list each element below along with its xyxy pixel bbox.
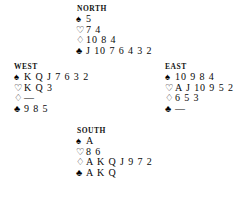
club-icon: ♣ xyxy=(14,104,23,115)
east-spades-row: ♠ 10 9 8 4 xyxy=(165,72,234,83)
spade-icon: ♠ xyxy=(165,72,174,83)
west-spades-row: ♠ K Q J 7 6 3 2 xyxy=(14,72,89,83)
hand-north: NORTH ♠ 5 ♡ 7 4 ♢ 10 8 4 ♣ J 10 7 6 4 3 … xyxy=(76,4,153,56)
heart-icon: ♡ xyxy=(14,83,23,94)
diamond-icon: ♢ xyxy=(76,157,85,168)
south-clubs-cards: A K Q xyxy=(85,168,117,179)
hand-south: SOUTH ♠ A ♡ 8 6 ♢ A K Q J 9 7 2 ♣ A K Q xyxy=(76,126,153,178)
hand-west: WEST ♠ K Q J 7 6 3 2 ♡ K Q 3 ♢ — ♣ 9 8 5 xyxy=(14,62,89,114)
seat-label-west: WEST xyxy=(14,62,89,71)
south-clubs-row: ♣ A K Q xyxy=(76,168,153,179)
north-spades-row: ♠ 5 xyxy=(76,14,153,25)
north-clubs-cards: J 10 7 6 4 3 2 xyxy=(85,46,153,57)
east-clubs-cards: — xyxy=(174,104,186,115)
seat-label-east: EAST xyxy=(165,62,234,71)
west-clubs-cards: 9 8 5 xyxy=(23,104,49,115)
seat-label-north: NORTH xyxy=(76,4,153,13)
club-icon: ♣ xyxy=(76,46,85,57)
club-icon: ♣ xyxy=(76,168,85,179)
north-clubs-row: ♣ J 10 7 6 4 3 2 xyxy=(76,46,153,57)
heart-icon: ♡ xyxy=(76,25,85,36)
south-spades-cards: A xyxy=(85,136,94,147)
spade-icon: ♠ xyxy=(76,136,85,147)
east-clubs-row: ♣ — xyxy=(165,104,234,115)
diamond-icon: ♢ xyxy=(76,35,85,46)
hand-east: EAST ♠ 10 9 8 4 ♡ A J 10 9 5 2 ♢ 6 5 3 ♣… xyxy=(165,62,234,114)
west-spades-cards: K Q J 7 6 3 2 xyxy=(23,72,89,83)
seat-label-south: SOUTH xyxy=(76,126,153,135)
diamond-icon: ♢ xyxy=(165,93,174,104)
bridge-deal-diagram: NORTH ♠ 5 ♡ 7 4 ♢ 10 8 4 ♣ J 10 7 6 4 3 … xyxy=(0,0,249,197)
heart-icon: ♡ xyxy=(76,147,85,158)
west-clubs-row: ♣ 9 8 5 xyxy=(14,104,89,115)
spade-icon: ♠ xyxy=(76,14,85,25)
spade-icon: ♠ xyxy=(14,72,23,83)
south-spades-row: ♠ A xyxy=(76,136,153,147)
club-icon: ♣ xyxy=(165,104,174,115)
north-spades-cards: 5 xyxy=(85,14,92,25)
east-spades-cards: 10 9 8 4 xyxy=(174,72,215,83)
diamond-icon: ♢ xyxy=(14,93,23,104)
heart-icon: ♡ xyxy=(165,83,174,94)
